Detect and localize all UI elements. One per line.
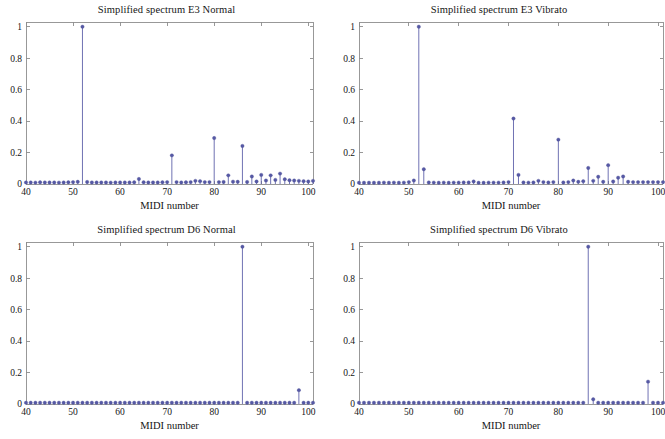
stem-marker: [278, 401, 281, 404]
x-tick-label: 70: [504, 187, 514, 197]
y-tick-label: 0.2: [10, 368, 22, 378]
x-tick-label: 60: [115, 407, 125, 417]
stem-marker: [651, 180, 654, 183]
stem-marker: [222, 401, 225, 404]
y-tick-label: 0: [17, 399, 22, 409]
stem-marker: [137, 177, 140, 180]
stem-marker: [387, 181, 390, 184]
stem-marker: [104, 181, 107, 184]
stem-marker: [231, 401, 234, 404]
stem-marker: [611, 401, 614, 404]
stem-marker: [362, 181, 365, 184]
stem-marker: [57, 181, 60, 184]
stem-marker: [437, 401, 440, 404]
stem-marker: [180, 401, 183, 404]
stem-marker: [532, 181, 535, 184]
stem-marker: [100, 401, 103, 404]
stem-marker: [517, 401, 520, 404]
stem-marker: [357, 181, 360, 184]
stem-marker: [227, 401, 230, 404]
y-tick-label: 0.6: [10, 85, 22, 95]
stem-marker: [462, 181, 465, 184]
stem-marker: [392, 401, 395, 404]
stem-marker: [156, 181, 159, 184]
stem-marker: [311, 401, 314, 404]
x-tick-label: 100: [301, 187, 316, 197]
stem-marker: [502, 181, 505, 184]
stem-marker: [90, 401, 93, 404]
stem-marker: [307, 401, 310, 404]
stem-marker: [626, 401, 629, 404]
stem-marker: [29, 401, 32, 404]
y-tick-label: 1: [17, 242, 22, 252]
stem-marker: [245, 401, 248, 404]
stem-series: [357, 25, 664, 184]
stem-marker: [432, 401, 435, 404]
stem-marker: [250, 175, 253, 178]
stem-marker: [292, 179, 295, 182]
stem-marker: [156, 401, 159, 404]
stem-marker: [442, 401, 445, 404]
stem-marker: [477, 401, 480, 404]
stem-marker: [189, 401, 192, 404]
stem-marker: [194, 179, 197, 182]
stem-marker: [302, 401, 305, 404]
y-tick-label: 0.2: [343, 148, 355, 158]
stem-marker: [274, 401, 277, 404]
stem-marker: [577, 180, 580, 183]
panel-title: Simplified spectrum E3 Normal: [0, 4, 333, 16]
x-tick-label: 60: [454, 407, 464, 417]
stem-marker: [417, 25, 420, 28]
stem-marker: [357, 401, 360, 404]
stem-marker: [661, 401, 664, 404]
stem-marker: [527, 401, 530, 404]
stem-marker: [547, 401, 550, 404]
stem-marker: [562, 401, 565, 404]
y-tick-label: 1: [17, 22, 22, 32]
stem-marker: [24, 401, 27, 404]
stem-marker: [142, 401, 145, 404]
stem-marker: [288, 179, 291, 182]
stem-marker: [260, 173, 263, 176]
stem-marker: [427, 401, 430, 404]
stem-marker: [184, 401, 187, 404]
stem-marker: [472, 180, 475, 183]
stem-marker: [432, 181, 435, 184]
axes-box: [26, 242, 313, 404]
stem-marker: [487, 401, 490, 404]
stem-marker: [269, 401, 272, 404]
figure-canvas: Simplified spectrum E3 Normal 4050607080…: [0, 0, 665, 439]
stem-marker: [552, 401, 555, 404]
stem-marker: [278, 172, 281, 175]
y-tick-label: 0.4: [343, 116, 355, 126]
stem-marker: [85, 180, 88, 183]
axes-box: [359, 242, 663, 404]
y-tick-label: 0.4: [10, 336, 22, 346]
stem-marker: [217, 180, 220, 183]
stem-marker: [502, 401, 505, 404]
stem-marker: [137, 401, 140, 404]
stem-marker: [621, 401, 624, 404]
stem-marker: [367, 401, 370, 404]
x-tick-label: 80: [209, 407, 219, 417]
stem-marker: [522, 181, 525, 184]
stem-marker: [147, 401, 150, 404]
stem-marker: [241, 144, 244, 147]
stem-marker: [482, 181, 485, 184]
stem-marker: [48, 401, 51, 404]
stem-marker: [577, 401, 580, 404]
stem-marker: [250, 401, 253, 404]
x-tick-label: 70: [162, 187, 172, 197]
stem-plot: 40506070809010000.20.40.60.81MIDI number: [333, 220, 665, 439]
y-tick-label: 0.4: [10, 116, 22, 126]
stem-marker: [62, 401, 65, 404]
stem-marker: [57, 401, 60, 404]
stem-marker: [372, 181, 375, 184]
stem-marker: [542, 401, 545, 404]
stem-marker: [467, 181, 470, 184]
stem-marker: [151, 401, 154, 404]
stem-series: [24, 25, 314, 184]
stem-marker: [283, 401, 286, 404]
axes-box: [26, 22, 313, 184]
stem-marker: [203, 401, 206, 404]
